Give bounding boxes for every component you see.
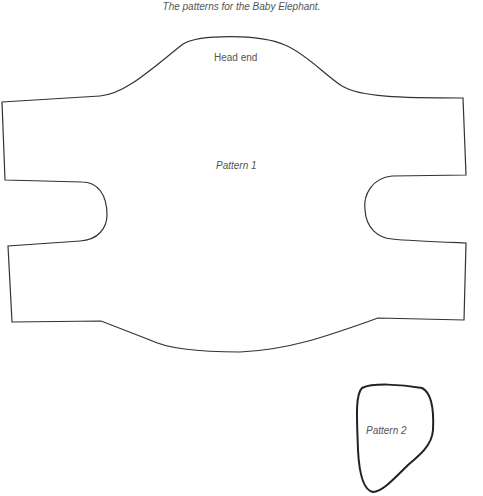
pattern-2-label: Pattern 2 (366, 425, 407, 436)
pattern-2-outline (357, 385, 433, 492)
pattern-1-label: Pattern 1 (216, 160, 257, 171)
pattern-drawing (0, 0, 483, 496)
head-end-label: Head end (214, 52, 257, 63)
pattern-1-outline (2, 37, 466, 352)
